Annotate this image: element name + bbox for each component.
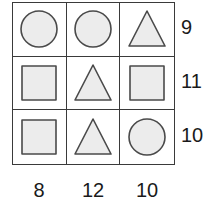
column-total-label-3: 10 xyxy=(120,178,174,202)
square-shape-icon xyxy=(19,63,59,103)
grid-cell-r1c2[interactable] xyxy=(67,3,121,57)
triangle-shape-icon xyxy=(73,117,113,157)
shape-grid xyxy=(12,2,175,165)
circle-shape-icon xyxy=(127,117,167,157)
row-total-label-1: 9 xyxy=(181,17,221,37)
row-total-label-2: 11 xyxy=(181,71,221,91)
grid-cell-r3c2[interactable] xyxy=(67,110,121,164)
grid-cell-r1c1[interactable] xyxy=(13,3,67,57)
circle-shape-icon xyxy=(73,9,113,49)
column-total-label-1: 8 xyxy=(12,178,66,202)
row-total-label-3: 10 xyxy=(181,125,221,145)
grid-cell-r3c1[interactable] xyxy=(13,110,67,164)
circle-shape-icon xyxy=(19,9,59,49)
triangle-shape-icon xyxy=(73,63,113,103)
grid-cell-r1c3[interactable] xyxy=(120,3,174,57)
grid-cell-r2c2[interactable] xyxy=(67,57,121,111)
square-shape-icon xyxy=(19,117,59,157)
square-shape-icon xyxy=(127,63,167,103)
column-total-label-2: 12 xyxy=(66,178,120,202)
grid-cell-r2c3[interactable] xyxy=(120,57,174,111)
grid-cell-r2c1[interactable] xyxy=(13,57,67,111)
shape-sum-puzzle: 9 11 10 8 12 10 xyxy=(0,0,223,217)
grid-cell-r3c3[interactable] xyxy=(120,110,174,164)
triangle-shape-icon xyxy=(127,9,167,49)
